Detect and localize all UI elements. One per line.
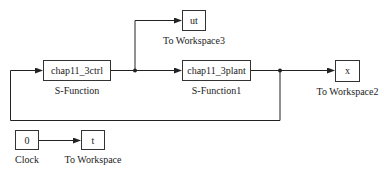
- block-caption: To Workspace: [65, 154, 122, 165]
- block-s-function[interactable]: chap11_3ctrl S-Function: [44, 61, 111, 97]
- block-to-workspace[interactable]: t To Workspace: [65, 131, 122, 166]
- simulink-diagram-canvas: chap11_3ctrl S-Function chap11_3plant S-…: [0, 0, 384, 174]
- block-clock[interactable]: 0 Clock: [15, 131, 39, 166]
- block-label: chap11_3plant: [187, 65, 246, 76]
- block-to-workspace2[interactable]: x To Workspace2: [317, 61, 379, 98]
- block-label: 0: [25, 135, 30, 146]
- block-caption: Clock: [15, 154, 39, 165]
- branch-point-ctrl-output: [133, 69, 137, 73]
- block-label: ut: [190, 15, 198, 26]
- block-caption: To Workspace2: [317, 86, 379, 97]
- block-caption: To Workspace3: [163, 35, 225, 46]
- block-label: t: [92, 135, 95, 146]
- branch-point-plant-output: [278, 69, 282, 73]
- block-to-workspace3[interactable]: ut To Workspace3: [163, 11, 225, 47]
- block-label: x: [345, 65, 350, 76]
- block-caption: S-Function1: [192, 85, 241, 96]
- block-s-function1[interactable]: chap11_3plant S-Function1: [183, 61, 251, 97]
- block-label: chap11_3ctrl: [51, 65, 103, 76]
- block-caption: S-Function: [55, 85, 99, 96]
